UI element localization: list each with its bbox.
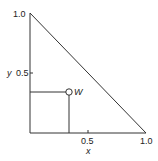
x-axis-label: x [85,146,91,156]
point-w-marker [66,89,72,95]
x-tick-label-end: 1.0 [140,136,153,146]
hypotenuse-line [30,13,146,133]
y-tick-label-mid: 0.5 [16,68,29,78]
simplex-diagram: 1.0 0.5 y 0.5 1.0 x W [0,0,158,161]
y-axis-label: y [6,68,12,78]
y-tick-label-top: 1.0 [13,9,26,19]
x-tick-label-mid: 0.5 [81,136,94,146]
point-w-label: W [74,87,84,97]
